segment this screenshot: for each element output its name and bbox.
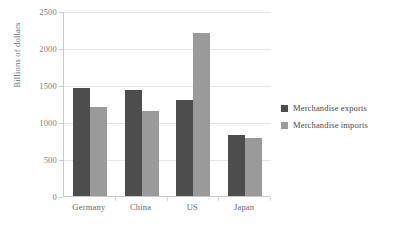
x-axis-tick-mark — [270, 197, 271, 201]
bar-imports[interactable] — [245, 138, 262, 196]
bar-group — [125, 11, 159, 196]
bar-imports[interactable] — [193, 33, 210, 196]
y-axis-tick-label: 1000 — [0, 119, 57, 128]
y-axis-title: Billions of dollars — [12, 0, 22, 125]
y-axis-tick-label: 1500 — [0, 82, 57, 91]
bar-exports[interactable] — [228, 135, 245, 196]
legend-item[interactable]: Merchandise imports — [281, 118, 368, 132]
x-axis-tick-mark — [167, 197, 168, 201]
y-axis-tick-mark — [59, 197, 63, 198]
x-axis-tick-label: Japan — [209, 202, 279, 212]
bar-group — [73, 11, 107, 196]
y-axis-tick-label: 2000 — [0, 45, 57, 54]
bar-group — [176, 11, 210, 196]
bar-exports[interactable] — [73, 88, 90, 196]
plot-area — [63, 12, 270, 197]
legend-item-label: Merchandise imports — [293, 120, 368, 130]
legend-item-label: Merchandise exports — [293, 103, 367, 113]
x-axis-tick-mark — [115, 197, 116, 201]
y-axis-tick-label: 500 — [0, 156, 57, 165]
legend-swatch-icon — [281, 105, 288, 112]
legend-swatch-icon — [281, 122, 288, 129]
chart-legend: Merchandise exportsMerchandise imports — [281, 101, 368, 135]
bar-group — [228, 11, 262, 196]
y-axis-tick-label: 0 — [0, 193, 57, 202]
bar-exports[interactable] — [125, 90, 142, 196]
bar-exports[interactable] — [176, 100, 193, 196]
bar-chart: Billions of dollars 05001000150020002500… — [0, 0, 401, 227]
bar-imports[interactable] — [142, 111, 159, 196]
y-axis-tick-label: 2500 — [0, 8, 57, 17]
x-axis-tick-mark — [218, 197, 219, 201]
legend-item[interactable]: Merchandise exports — [281, 101, 368, 115]
bar-imports[interactable] — [90, 107, 107, 196]
